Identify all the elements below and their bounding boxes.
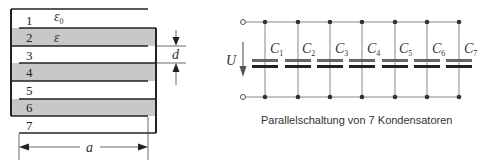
layer-label-1: 1 (26, 13, 33, 28)
capacitor-c1: C1 (252, 20, 283, 100)
top-terminal (241, 20, 246, 25)
capacitor-c3: C3 (317, 20, 348, 100)
svg-text:C7: C7 (464, 41, 477, 58)
d-arrow-up-icon (173, 63, 180, 72)
capacitor-c2: C2 (285, 20, 315, 100)
bottom-terminal (241, 95, 246, 100)
dielectric-layer-6 (11, 99, 156, 116)
layer-label-5: 5 (26, 83, 33, 98)
layer-label-4: 4 (26, 65, 33, 80)
voltage-arrow-icon (240, 66, 247, 77)
layer-label-3: 3 (26, 48, 33, 63)
epsilon-label: ε (54, 30, 60, 45)
layer-label-6: 6 (26, 100, 33, 115)
capacitor-c7: C7 (446, 20, 477, 100)
d-label: d (172, 47, 180, 62)
dielectric-layer-4 (11, 63, 156, 81)
circuit-caption: Parallelschaltung von 7 Kondensatoren (261, 114, 452, 126)
d-arrow-down-icon (173, 37, 180, 46)
dielectric-layer-2 (11, 28, 156, 46)
parallel-circuit-diagram: U C1 C2 C3 C4 (226, 20, 477, 127)
a-arrow-right-icon (138, 144, 148, 151)
capacitor-c4: C4 (349, 20, 380, 100)
layer-label-2: 2 (26, 30, 33, 45)
svg-text:C2: C2 (302, 41, 315, 58)
a-arrow-left-icon (19, 144, 29, 151)
plate-stack-diagram: 1 2 3 4 5 6 7 ε0 ε d a (11, 9, 186, 160)
svg-text:C3: C3 (335, 41, 348, 58)
capacitor-c6: C6 (414, 20, 445, 100)
layer-label-7: 7 (26, 118, 33, 133)
svg-text:C5: C5 (399, 41, 412, 58)
svg-text:C6: C6 (432, 41, 445, 58)
epsilon-zero-label: ε0 (54, 9, 64, 26)
svg-text:C1: C1 (270, 41, 283, 58)
a-label: a (86, 140, 93, 155)
figure: 1 2 3 4 5 6 7 ε0 ε d a U (0, 0, 489, 162)
svg-text:C4: C4 (367, 41, 380, 58)
voltage-label: U (226, 53, 237, 68)
capacitor-c5: C5 (382, 20, 412, 100)
